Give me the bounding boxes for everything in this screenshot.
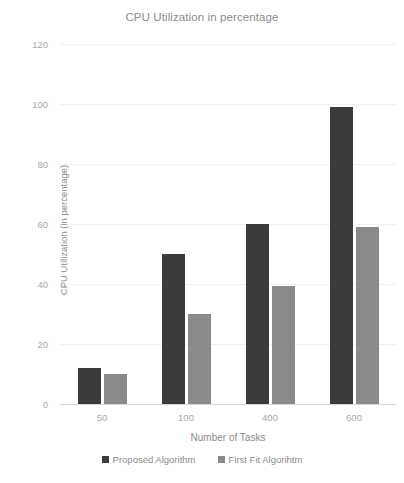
bar-group <box>60 44 144 404</box>
bar-100-proposed <box>162 254 185 404</box>
bar-400-firstfit <box>272 286 295 405</box>
bars-layer <box>60 44 396 404</box>
y-axis-tick-label: 120 <box>8 39 48 50</box>
x-axis-tick-label: 400 <box>262 412 278 423</box>
bar-600-proposed <box>330 107 353 404</box>
x-axis-line <box>60 404 396 405</box>
y-axis-title-container: CPU Utilization (in percentage) <box>0 140 18 320</box>
chart-title: CPU Utilization in percentage <box>0 11 404 23</box>
legend-label: Proposed Algorithm <box>113 454 196 465</box>
bar-600-firstfit <box>356 227 379 404</box>
x-axis-tick-label: 50 <box>97 412 108 423</box>
x-axis-title: Number of Tasks <box>60 432 396 443</box>
legend-swatch-icon <box>102 456 109 463</box>
bar-group <box>312 44 396 404</box>
legend-label: First Fit Algorihtm <box>229 454 303 465</box>
bar-chart: CPU Utilization in percentage 0204060801… <box>0 0 404 483</box>
y-axis-tick-label: 20 <box>8 339 48 350</box>
legend-swatch-icon <box>218 456 225 463</box>
y-axis-tick-label: 0 <box>8 399 48 410</box>
y-axis-tick-label: 100 <box>8 99 48 110</box>
chart-legend: Proposed AlgorithmFirst Fit Algorihtm <box>0 454 404 465</box>
bar-group <box>228 44 312 404</box>
bar-50-proposed <box>78 368 101 404</box>
legend-item-proposed-algorithm[interactable]: Proposed Algorithm <box>102 454 196 465</box>
bar-400-proposed <box>246 224 269 404</box>
bar-50-firstfit <box>104 374 127 404</box>
x-axis-tick-label: 100 <box>178 412 194 423</box>
legend-item-first-fit-algorithm[interactable]: First Fit Algorihtm <box>218 454 303 465</box>
bar-group <box>144 44 228 404</box>
x-axis-tick-label: 600 <box>346 412 362 423</box>
bar-100-firstfit <box>188 314 211 404</box>
